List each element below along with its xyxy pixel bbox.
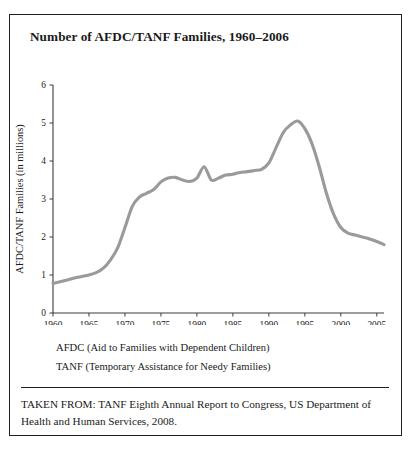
y-axis-title: AFDC/TANF Families (in millions): [14, 124, 26, 274]
source-attribution: TAKEN FROM: TANF Eighth Annual Report to…: [21, 396, 381, 429]
y-axis-tick-labels: 0123456: [41, 80, 46, 318]
x-tick-label: 2005: [367, 320, 386, 325]
x-tick-label: 1995: [295, 320, 314, 325]
x-tick-label: 1970: [116, 320, 135, 325]
y-tick-label: 1: [41, 270, 46, 280]
figure-frame: Number of AFDC/TANF Families, 1960–2006 …: [9, 14, 402, 436]
y-tick-label: 5: [41, 118, 46, 128]
x-axis-tick-labels: 1960196519701975198019851990199520002005: [44, 320, 387, 325]
chart-series-group: [53, 121, 384, 283]
y-tick-label: 3: [41, 194, 46, 204]
x-tick-label: 2000: [331, 320, 350, 325]
y-tick-label: 0: [41, 308, 46, 318]
y-tick-label: 4: [41, 156, 46, 166]
legend: AFDC (Aid to Families with Dependent Chi…: [56, 339, 386, 376]
x-tick-label: 1985: [224, 320, 243, 325]
legend-item-tanf: TANF (Temporary Assistance for Needy Fam…: [56, 358, 386, 377]
y-tick-label: 6: [41, 80, 46, 90]
chart-plot-area: 0123456 19601965197019751980198519901995…: [10, 59, 400, 325]
divider: [21, 387, 389, 388]
line-chart-svg: 0123456 19601965197019751980198519901995…: [10, 59, 400, 325]
x-tick-label: 1960: [44, 320, 63, 325]
axis-lines: [53, 85, 384, 313]
data-series-line: [53, 121, 384, 283]
x-tick-label: 1990: [259, 320, 278, 325]
x-tick-label: 1965: [80, 320, 99, 325]
x-tick-label: 1975: [152, 320, 171, 325]
y-tick-label: 2: [41, 232, 46, 242]
legend-item-afdc: AFDC (Aid to Families with Dependent Chi…: [56, 339, 386, 358]
x-tick-label: 1980: [188, 320, 207, 325]
page-title: Number of AFDC/TANF Families, 1960–2006: [30, 29, 289, 45]
